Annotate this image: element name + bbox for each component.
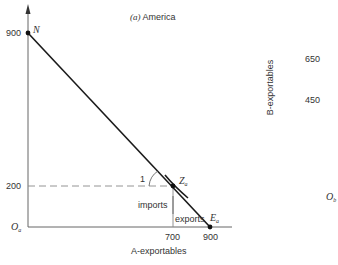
label-Z: Za — [179, 176, 188, 187]
origin-b-sub: b — [333, 197, 336, 203]
y-tick-900: 900 — [6, 29, 21, 38]
title-prefix: (a) — [130, 12, 141, 22]
trade-line — [28, 33, 210, 227]
slope-angle-arc — [149, 171, 158, 186]
x-tick-700: 700 — [165, 233, 180, 242]
title-country: America — [143, 12, 176, 22]
right-tick-450: 450 — [305, 96, 320, 105]
diagram-canvas — [0, 0, 338, 265]
label-E-sub: a — [216, 218, 219, 224]
y-tick-200: 200 — [6, 182, 21, 191]
imports-label: imports — [138, 201, 168, 210]
y-axis-arrow-icon — [26, 4, 31, 14]
exports-label: exports — [175, 215, 205, 224]
origin-sub: a — [18, 227, 21, 233]
label-Z-sub: a — [185, 181, 188, 187]
point-N — [26, 31, 31, 36]
panel-title: (a) America — [130, 13, 176, 22]
point-Z — [171, 184, 176, 189]
origin-label-b: Ob — [326, 192, 336, 203]
slope-label: 1 — [140, 175, 145, 184]
x-tick-900: 900 — [203, 233, 218, 242]
right-tick-650: 650 — [305, 55, 320, 64]
origin-label-a: Oa — [11, 222, 21, 233]
point-E — [208, 225, 213, 230]
x-axis-label: A-exportables — [131, 247, 187, 256]
label-N: N — [33, 25, 40, 35]
right-y-axis-label: B-exportables — [266, 60, 275, 116]
label-E: Ea — [210, 213, 219, 224]
